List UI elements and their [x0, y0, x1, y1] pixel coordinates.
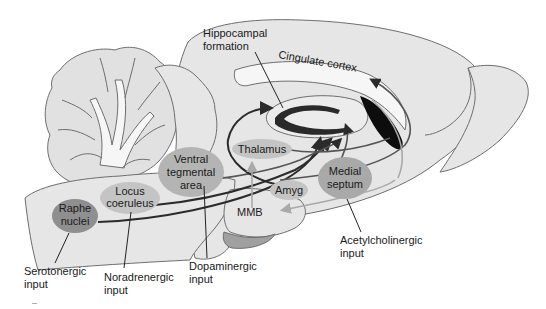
thalamus-label: Thalamus [238, 143, 287, 155]
serotonergic-label-1: Serotonergic [24, 265, 87, 277]
medial-septum-node: Medial septum [318, 157, 372, 199]
mmb-label: MMB [237, 206, 263, 218]
noradrenergic-label-2: input [104, 284, 128, 296]
brain-diagram: Thalamus Amyg Medial septum Ventral tegm… [0, 0, 546, 309]
locus-coeruleus-node: Locus coeruleus [100, 182, 160, 214]
vta-label-1: Ventral [174, 153, 208, 165]
raphe-nuclei-node: Raphe nuclei [52, 199, 98, 233]
hippocampal-formation-label-2: formation [203, 40, 249, 52]
locus-coeruleus-label-1: Locus [115, 185, 145, 197]
dopaminergic-label-1: Dopaminergic [189, 260, 257, 272]
acetylcholinergic-leader [347, 199, 361, 232]
amyg-node: Amyg [270, 180, 308, 200]
amyg-label: Amyg [275, 184, 303, 196]
vta-node: Ventral tegmental area [158, 147, 224, 197]
acetylcholinergic-label-1: Acetylcholinergic [340, 234, 423, 246]
vta-label-2: tegmental [167, 166, 215, 178]
cerebrum-outline [175, 20, 480, 260]
thalamus-node: Thalamus [232, 139, 292, 159]
raphe-nuclei-label-2: nuclei [61, 215, 90, 227]
serotonergic-label-2: input [24, 278, 48, 290]
raphe-nuclei-label-1: Raphe [59, 202, 91, 214]
medial-septum-label-2: septum [327, 178, 363, 190]
acetylcholinergic-label-2: input [340, 247, 364, 259]
vta-label-3: area [180, 179, 203, 191]
medial-septum-label-1: Medial [329, 165, 361, 177]
locus-coeruleus-label-2: coeruleus [106, 197, 154, 209]
corner-mark: – [32, 298, 37, 308]
dopaminergic-label-2: input [189, 273, 213, 285]
noradrenergic-label-1: Noradrenergic [104, 271, 174, 283]
hippocampal-formation-label-1: Hippocampal [203, 27, 267, 39]
